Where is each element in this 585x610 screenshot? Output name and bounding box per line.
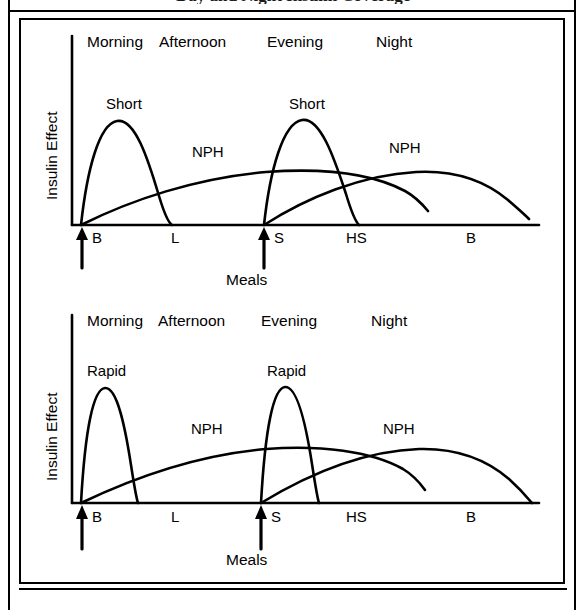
- frame-bottom-right-rule: [574, 594, 576, 610]
- curve-nph-night: [261, 449, 532, 503]
- curve-short-morning: [81, 121, 172, 225]
- figure-bottom-divider: [19, 588, 567, 590]
- tod-morning: Morning: [87, 313, 143, 329]
- curve-label-nph-night: NPH: [383, 421, 415, 436]
- meal-arrow-supper-head: [255, 505, 267, 519]
- chart-short-nph-svg: [21, 20, 567, 303]
- curve-label-nph-morning: NPH: [192, 144, 224, 159]
- chart-short-nph: Insulin Effect Morning Afternoon Evening…: [21, 20, 567, 303]
- cut-caption-text: Day and Night Insulin Coverage: [176, 0, 410, 4]
- chart-short-nph-plot: [21, 20, 567, 303]
- tick-label-b1: B: [92, 230, 102, 245]
- curve-label-nph-night: NPH: [389, 140, 421, 155]
- frame-bottom-left-rule: [8, 594, 10, 610]
- tod-night: Night: [376, 34, 412, 50]
- tod-afternoon: Afternoon: [159, 34, 226, 50]
- curve-label-short-evening: Short: [289, 96, 325, 111]
- tick-label-s: S: [271, 509, 281, 524]
- curve-label-nph-morning: NPH: [191, 421, 223, 436]
- y-axis-label: Insulin Effect: [43, 393, 61, 481]
- curve-label-rapid-morning: Rapid: [87, 363, 126, 378]
- tick-label-b2: B: [466, 230, 476, 245]
- tick-label-b2: B: [466, 509, 476, 524]
- curve-label-rapid-evening: Rapid: [267, 363, 306, 378]
- frame-right-rule: [574, 0, 576, 610]
- curve-label-short-morning: Short: [106, 96, 142, 111]
- y-axis-label: Insulin Effect: [43, 112, 61, 200]
- tick-label-s: S: [274, 230, 284, 245]
- tod-night: Night: [371, 313, 407, 329]
- figure-box: Insulin Effect Morning Afternoon Evening…: [19, 18, 565, 584]
- figure-page: Day and Night Insulin Coverage: [0, 0, 585, 610]
- meal-arrow-breakfast-head: [76, 505, 88, 519]
- tick-label-hs: HS: [346, 509, 367, 524]
- meals-label: Meals: [226, 552, 267, 568]
- tod-morning: Morning: [87, 34, 143, 50]
- frame-left-rule: [8, 0, 10, 610]
- cut-caption-top: Day and Night Insulin Coverage: [0, 0, 585, 4]
- tick-label-hs: HS: [346, 230, 367, 245]
- meal-arrow-breakfast-head: [76, 227, 88, 240]
- chart-rapid-nph: Insulin Effect Morning Afternoon Evening…: [21, 303, 567, 586]
- tick-label-l: L: [171, 509, 179, 524]
- curve-nph-morning: [81, 171, 428, 225]
- meal-arrow-supper-head: [258, 227, 270, 240]
- tod-evening: Evening: [261, 313, 317, 329]
- meals-label: Meals: [226, 272, 267, 288]
- curve-rapid-morning: [81, 388, 138, 503]
- tick-label-l: L: [171, 230, 179, 245]
- tick-label-b1: B: [92, 509, 102, 524]
- chart-rapid-nph-svg: [21, 303, 567, 586]
- curve-nph-night: [264, 172, 529, 225]
- tod-afternoon: Afternoon: [158, 313, 225, 329]
- tod-evening: Evening: [267, 34, 323, 50]
- chart-rapid-nph-plot: [21, 303, 567, 586]
- frame-top-rule: [8, 10, 576, 12]
